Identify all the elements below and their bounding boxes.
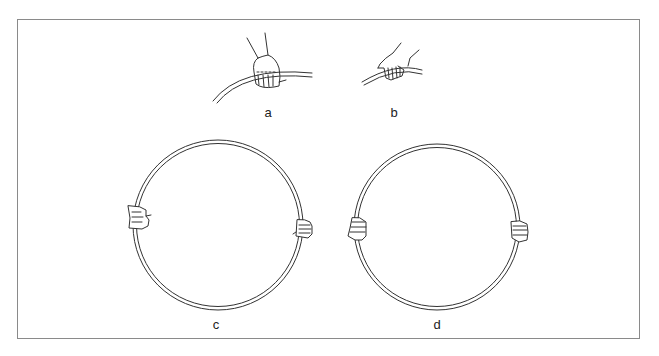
hand-right-icon <box>511 221 528 242</box>
hand-left-icon <box>348 218 366 240</box>
panel-d-drawing <box>348 144 528 310</box>
panel-d-label: d <box>433 318 440 331</box>
panel-b-label: b <box>390 106 397 119</box>
hand-underhand-icon <box>378 43 419 80</box>
hand-left-icon <box>128 206 151 229</box>
panel-a-drawing <box>213 33 312 103</box>
panel-a-label: a <box>264 106 271 119</box>
hoop-circle-icon <box>354 144 520 310</box>
hand-right-icon <box>293 220 312 238</box>
hand-overhand-icon <box>247 33 286 88</box>
panel-b-drawing <box>362 43 422 85</box>
hoop-grip-illustration <box>0 0 659 356</box>
panel-c-drawing <box>128 140 312 310</box>
panel-c-label: c <box>213 318 220 331</box>
hoop-circle-icon <box>133 140 303 310</box>
